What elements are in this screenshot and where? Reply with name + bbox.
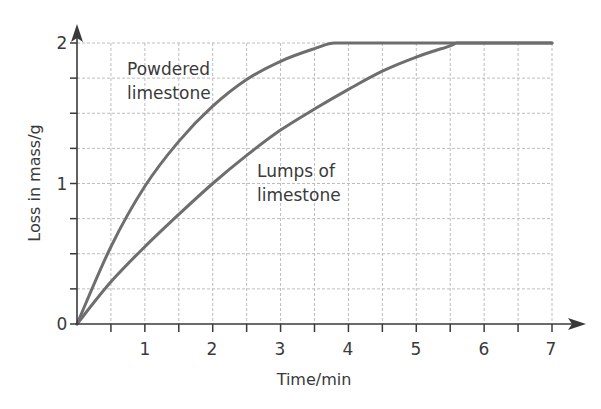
x-tick-label-5: 5: [411, 339, 422, 359]
y-tick-label-2: 2: [57, 33, 68, 53]
annotation-powdered-line2: limestone: [127, 83, 211, 103]
y-tick-label-0: 0: [57, 314, 68, 334]
annotation-lumps-line1: Lumps of: [257, 161, 336, 181]
x-tick-label-3: 3: [275, 339, 286, 359]
annotation-powdered-line1: Powdered: [127, 59, 210, 79]
y-axis-title: Loss in mass/g: [25, 124, 44, 241]
x-axis-title: Time/min: [276, 370, 352, 389]
y-tick-label-1: 1: [57, 174, 68, 194]
x-tick-label-7: 7: [546, 339, 557, 359]
x-tick-label-4: 4: [343, 339, 354, 359]
x-tick-label-1: 1: [140, 339, 151, 359]
x-tick-label-6: 6: [479, 339, 490, 359]
chart: 0 1 2 1 2 3 4 5 6 7 Time/min Loss in mas…: [0, 0, 601, 409]
annotation-lumps-line2: limestone: [257, 185, 341, 205]
x-tick-labels: 1 2 3 4 5 6 7: [140, 339, 557, 359]
x-tick-label-2: 2: [207, 339, 218, 359]
